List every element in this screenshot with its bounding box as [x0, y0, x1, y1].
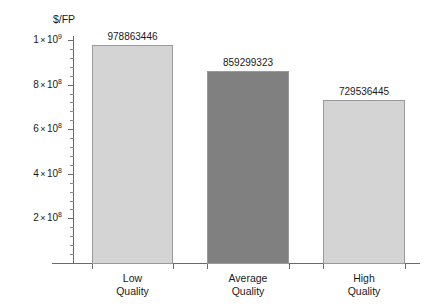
y-tick-minor [70, 227, 74, 228]
y-tick-minor [70, 165, 74, 166]
y-tick-major [68, 174, 74, 175]
category-label-line: High [298, 272, 425, 285]
y-tick-minor [70, 201, 74, 202]
bar-value-label: 978863446 [72, 31, 193, 42]
bar[interactable] [323, 100, 405, 264]
y-tick-minor [70, 49, 74, 50]
y-axis-title: $/FP [34, 13, 94, 25]
bar[interactable] [92, 45, 173, 264]
y-tick-label: 8×108 [10, 80, 62, 90]
x-axis-category-label: AverageQuality [182, 272, 314, 297]
x-tick [173, 263, 174, 269]
y-tick-minor [70, 111, 74, 112]
bar-value-label: 859299323 [187, 57, 309, 68]
y-tick-label: 6×108 [10, 124, 62, 134]
y-tick-minor [70, 156, 74, 157]
y-tick-label: 4×108 [10, 169, 62, 179]
y-tick-minor [70, 120, 74, 121]
y-tick-minor [70, 102, 74, 103]
bar-chart: $/FP 2×1084×1086×1088×1081×109 978863446… [0, 0, 425, 308]
category-label-line: Quality [182, 285, 314, 298]
bar[interactable] [207, 71, 289, 264]
category-label-line: Quality [298, 285, 425, 298]
y-tick-minor [70, 147, 74, 148]
x-axis-category-label: HighQuality [298, 272, 425, 297]
x-tick [405, 263, 406, 269]
y-tick-minor [70, 183, 74, 184]
bar-value-label: 729536445 [303, 86, 425, 97]
category-label-line: Quality [67, 285, 198, 298]
y-tick-major [68, 218, 74, 219]
y-axis-line [73, 36, 74, 264]
y-tick-minor [70, 245, 74, 246]
y-tick-minor [70, 254, 74, 255]
y-tick-minor [70, 236, 74, 237]
x-tick [289, 263, 290, 269]
category-label-line: Low [67, 272, 198, 285]
y-tick-label: 1×109 [10, 35, 62, 45]
y-tick-major [68, 129, 74, 130]
y-tick-minor [70, 67, 74, 68]
x-axis-category-label: LowQuality [67, 272, 198, 297]
category-label-line: Average [182, 272, 314, 285]
y-tick-label: 2×108 [10, 213, 62, 223]
y-tick-minor [70, 94, 74, 95]
y-tick-major [68, 85, 74, 86]
y-tick-minor [70, 138, 74, 139]
y-tick-minor [70, 192, 74, 193]
y-tick-minor [70, 209, 74, 210]
y-tick-minor [70, 58, 74, 59]
y-tick-minor [70, 76, 74, 77]
